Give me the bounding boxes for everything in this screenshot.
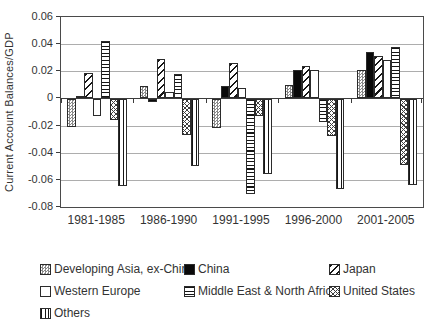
category-axis-tick [351, 99, 352, 103]
bar-japan [229, 63, 238, 98]
legend-label: Middle East & North Africa [198, 284, 338, 298]
category-axis-tick [61, 99, 62, 103]
gridline [61, 153, 423, 154]
y-axis-tick [56, 97, 60, 98]
legend-item-developing-asia-ex-china: Developing Asia, ex-China [40, 262, 195, 276]
bar-china [221, 86, 230, 98]
legend-marker-others [40, 308, 51, 319]
y-axis-tick-label: 0.04 [0, 37, 53, 49]
gridline [61, 180, 423, 181]
bar-developing-asia-ex-china [357, 70, 366, 99]
bar-japan [157, 59, 166, 98]
legend-label: United States [343, 284, 415, 298]
legend-item-united-states: United States [329, 284, 415, 298]
bar-japan [84, 73, 93, 99]
category-axis-tick [133, 99, 134, 103]
y-axis-tick-label: -0.02 [0, 119, 53, 131]
bar-developing-asia-ex-china [140, 86, 149, 98]
legend-label: Japan [343, 262, 376, 276]
legend-marker-china [184, 264, 195, 275]
y-axis-tick [56, 179, 60, 180]
legend-item-others: Others [40, 306, 90, 320]
y-axis-tick-label: 0.06 [0, 10, 53, 22]
bar-middle-east-north-africa [319, 99, 328, 122]
legend-marker-developing-asia-ex-china [40, 264, 51, 275]
legend-label: Developing Asia, ex-China [54, 262, 195, 276]
y-axis-tick-label: 0 [0, 91, 53, 103]
bar-developing-asia-ex-china [67, 99, 76, 126]
bar-united-states [327, 99, 336, 136]
y-axis-tick-label: -0.08 [0, 200, 53, 212]
bar-middle-east-north-africa [174, 74, 183, 98]
y-axis-tick-label: 0.02 [0, 64, 53, 76]
bar-western-europe [383, 60, 392, 98]
x-axis-category-label: 1991-1995 [205, 213, 277, 227]
x-axis-category-label: 1981-1985 [60, 213, 132, 227]
bar-western-europe [238, 88, 247, 99]
legend-marker-middle-east-north-africa [184, 286, 195, 297]
bar-united-states [110, 99, 119, 119]
chart-figure: Current Account Balances/GDP 0.060.040.0… [0, 0, 433, 325]
bar-others [118, 99, 127, 186]
y-axis-tick [56, 125, 60, 126]
gridline [61, 44, 423, 45]
bar-western-europe [165, 92, 174, 99]
bar-japan [302, 66, 311, 99]
bar-others [263, 99, 272, 174]
legend-item-western-europe: Western Europe [40, 284, 141, 298]
bar-middle-east-north-africa [246, 99, 255, 194]
x-axis-category-label: 2001-2005 [350, 213, 422, 227]
y-axis-tick [56, 16, 60, 17]
category-axis-tick [206, 99, 207, 103]
y-axis-tick-label: -0.06 [0, 173, 53, 185]
y-axis-tick [56, 43, 60, 44]
y-axis-tick [56, 206, 60, 207]
bar-developing-asia-ex-china [285, 85, 294, 99]
bar-china [76, 96, 85, 99]
bar-developing-asia-ex-china [212, 99, 221, 128]
legend-item-china: China [184, 262, 229, 276]
bar-japan [374, 56, 383, 98]
category-axis-tick [421, 99, 422, 103]
gridline [61, 126, 423, 127]
legend-item-middle-east-north-africa: Middle East & North Africa [184, 284, 338, 298]
bar-china [293, 70, 302, 99]
legend-marker-united-states [329, 286, 340, 297]
plot-area [60, 16, 424, 208]
y-axis-tick-label: -0.04 [0, 146, 53, 158]
bar-western-europe [93, 99, 102, 115]
legend-marker-western-europe [40, 286, 51, 297]
bar-others [336, 99, 345, 189]
bar-united-states [255, 99, 264, 115]
bar-middle-east-north-africa [101, 41, 110, 98]
bar-middle-east-north-africa [391, 47, 400, 99]
y-axis-tick [56, 152, 60, 153]
bar-others [408, 99, 417, 185]
legend-item-japan: Japan [329, 262, 376, 276]
bar-united-states [182, 99, 191, 134]
category-axis-tick [278, 99, 279, 103]
bar-others [191, 99, 200, 166]
bar-united-states [400, 99, 409, 164]
legend-marker-japan [329, 264, 340, 275]
y-axis-tick [56, 70, 60, 71]
x-axis-category-label: 1986-1990 [132, 213, 204, 227]
bar-china [366, 52, 375, 98]
bar-china [148, 99, 157, 102]
bar-western-europe [310, 70, 319, 99]
legend-label: Others [54, 306, 90, 320]
legend-label: Western Europe [54, 284, 141, 298]
legend-label: China [198, 262, 229, 276]
x-axis-category-label: 1996-2000 [277, 213, 349, 227]
